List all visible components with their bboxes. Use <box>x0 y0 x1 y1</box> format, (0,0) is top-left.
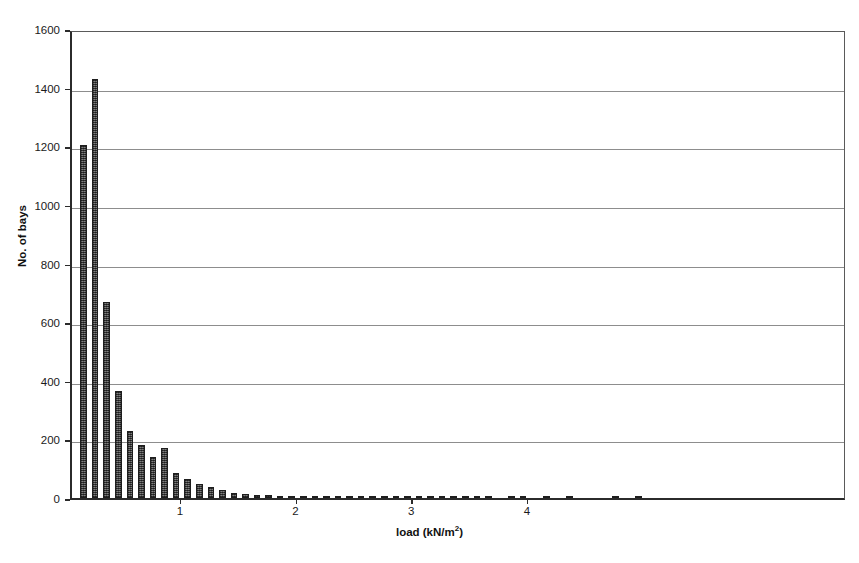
gridline <box>72 267 844 268</box>
bar <box>404 496 411 498</box>
gridline <box>72 91 844 92</box>
bar <box>103 302 110 498</box>
x-tick-label: 2 <box>284 505 308 517</box>
bar <box>196 484 203 498</box>
y-tick-label: 200 <box>0 435 60 447</box>
y-tick-label: 0 <box>0 494 60 506</box>
bar <box>161 448 168 498</box>
y-tick-label: 1000 <box>0 201 60 213</box>
y-tick-label: 400 <box>0 377 60 389</box>
plot-area <box>70 31 845 500</box>
gridline <box>72 384 844 385</box>
x-tick-mark <box>527 500 528 504</box>
bar <box>127 431 134 498</box>
bar <box>80 145 87 498</box>
bar <box>138 445 145 498</box>
bar <box>231 493 238 498</box>
y-tick-label: 800 <box>0 260 60 272</box>
bar <box>439 496 446 498</box>
x-tick-mark <box>411 500 412 504</box>
x-axis-title-tail: ) <box>459 526 463 538</box>
y-tick-label: 1400 <box>0 84 60 96</box>
bar <box>242 494 249 498</box>
bar <box>508 496 515 498</box>
bar <box>416 496 423 498</box>
bar <box>265 495 272 498</box>
bar <box>462 496 469 498</box>
x-axis-title: load (kN/m2) <box>0 524 859 538</box>
bar <box>427 496 434 498</box>
y-tick-label: 600 <box>0 318 60 330</box>
x-axis-title-base: load (kN/m <box>396 526 455 538</box>
bar <box>485 496 492 498</box>
bar <box>288 496 295 498</box>
bar <box>520 496 527 498</box>
bar <box>312 496 319 498</box>
bar <box>150 457 157 498</box>
bar <box>450 496 457 498</box>
bar <box>300 496 307 498</box>
y-axis-title-container: No. of bays <box>20 0 40 500</box>
y-tick-label: 1600 <box>0 25 60 37</box>
bar <box>358 496 365 498</box>
bar <box>474 496 481 498</box>
bar <box>323 496 330 498</box>
bar <box>277 496 284 498</box>
gridline <box>72 208 844 209</box>
bar <box>369 496 376 498</box>
x-tick-label: 3 <box>399 505 423 517</box>
x-tick-label: 1 <box>168 505 192 517</box>
bar <box>254 495 261 498</box>
x-tick-mark <box>296 500 297 504</box>
bar <box>612 496 619 498</box>
y-tick-label: 1200 <box>0 142 60 154</box>
bar <box>543 496 550 498</box>
bar <box>173 473 180 498</box>
x-tick-label: 4 <box>515 505 539 517</box>
bar <box>346 496 353 498</box>
bar <box>335 496 342 498</box>
gridline <box>72 442 844 443</box>
bar-chart: No. of bays 0200400600800100012001400160… <box>0 0 859 563</box>
bar <box>115 391 122 498</box>
gridline <box>72 149 844 150</box>
bar <box>635 496 642 498</box>
gridline <box>72 325 844 326</box>
bar <box>184 479 191 498</box>
bar <box>219 490 226 498</box>
bar <box>208 487 215 498</box>
y-axis-title: No. of bays <box>16 205 28 267</box>
bar <box>566 496 573 498</box>
bar <box>393 496 400 498</box>
x-tick-mark <box>180 500 181 504</box>
bar <box>92 79 99 498</box>
bar <box>381 496 388 498</box>
